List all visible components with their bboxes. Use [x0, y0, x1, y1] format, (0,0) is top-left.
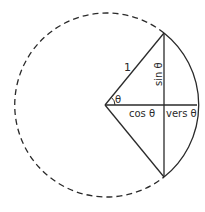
- versine-label: vers θ: [166, 108, 197, 119]
- radius-label: 1: [124, 61, 131, 74]
- angle-label: θ: [115, 94, 121, 105]
- sine-label: sin θ: [153, 62, 164, 86]
- versine-diagram: 1 θ sin θ cos θ vers θ: [0, 0, 205, 212]
- cosine-label: cos θ: [129, 108, 155, 119]
